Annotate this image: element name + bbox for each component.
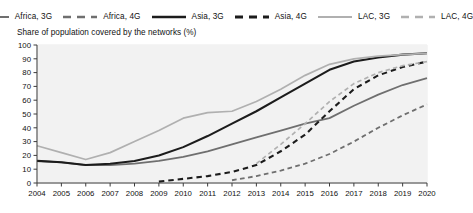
legend-asia-3g[interactable]: Asia, 3G bbox=[151, 9, 224, 25]
x-tick-label: 2018 bbox=[370, 189, 387, 198]
legend-africa-3g[interactable]: Africa, 3G bbox=[0, 9, 52, 25]
x-tick-label: 2007 bbox=[101, 189, 118, 198]
y-tick-label: 50 bbox=[22, 110, 31, 119]
legend-label: LAC, 4G bbox=[441, 12, 473, 22]
x-tick-label: 2006 bbox=[77, 189, 94, 198]
x-tick-label: 2019 bbox=[394, 189, 411, 198]
x-tick-label: 2014 bbox=[272, 189, 290, 198]
legend-line-swatch bbox=[0, 12, 10, 22]
legend-line-swatch bbox=[62, 12, 98, 22]
y-tick-label: 60 bbox=[22, 96, 31, 105]
legend-africa-4g[interactable]: Africa, 4G bbox=[62, 9, 140, 25]
legend-label: Africa, 3G bbox=[15, 12, 52, 22]
x-axis-labels: 2004200520062007200820092010201120122013… bbox=[28, 189, 436, 198]
y-axis-labels: 1009080706050403020100 bbox=[18, 41, 32, 188]
legend-label: Asia, 3G bbox=[192, 12, 224, 22]
legend-line-swatch bbox=[234, 12, 270, 22]
x-tick-label: 2004 bbox=[28, 189, 46, 198]
x-tick-label: 2017 bbox=[345, 189, 362, 198]
legend-label: Asia, 4G bbox=[275, 12, 307, 22]
y-tick-label: 70 bbox=[22, 82, 31, 91]
x-tick-label: 2012 bbox=[223, 189, 240, 198]
x-tick-label: 2016 bbox=[321, 189, 338, 198]
line-chart-svg: 1009080706050403020100 20042005200620072… bbox=[0, 38, 447, 213]
legend-line-swatch bbox=[317, 12, 353, 22]
x-tick-label: 2008 bbox=[126, 189, 143, 198]
x-tick-label: 2020 bbox=[418, 189, 436, 198]
x-tick-label: 2009 bbox=[150, 189, 167, 198]
x-tick-label: 2010 bbox=[175, 189, 193, 198]
plot-background bbox=[37, 45, 427, 183]
y-tick-label: 90 bbox=[22, 55, 31, 64]
plot-area: 1009080706050403020100 20042005200620072… bbox=[0, 38, 447, 213]
x-tick-label: 2015 bbox=[296, 189, 314, 198]
x-tick-label: 2011 bbox=[199, 189, 216, 198]
plot-bg-rect bbox=[37, 45, 427, 183]
x-tick-label: 2005 bbox=[53, 189, 71, 198]
legend-line-swatch bbox=[400, 12, 436, 22]
legend-label: Africa, 4G bbox=[103, 12, 140, 22]
y-tick-label: 80 bbox=[22, 68, 31, 77]
x-tick-label: 2013 bbox=[248, 189, 265, 198]
y-tick-label: 20 bbox=[22, 151, 31, 160]
legend-lac-4g[interactable]: LAC, 4G bbox=[400, 9, 473, 25]
legend-asia-4g[interactable]: Asia, 4G bbox=[234, 9, 307, 25]
y-tick-label: 0 bbox=[27, 179, 32, 188]
legend-lac-3g[interactable]: LAC, 3G bbox=[317, 9, 390, 25]
y-tick-label: 10 bbox=[22, 165, 31, 174]
y-tick-label: 30 bbox=[22, 137, 31, 146]
y-tick-label: 40 bbox=[22, 124, 31, 133]
legend-label: LAC, 3G bbox=[358, 12, 390, 22]
y-tick-label: 100 bbox=[18, 41, 32, 50]
chart-legend: Africa, 3GAfrica, 4GAsia, 3GAsia, 4GLAC,… bbox=[0, 9, 447, 25]
chart-subtitle: Share of population covered by the netwo… bbox=[17, 28, 196, 37]
legend-line-swatch bbox=[151, 12, 187, 22]
